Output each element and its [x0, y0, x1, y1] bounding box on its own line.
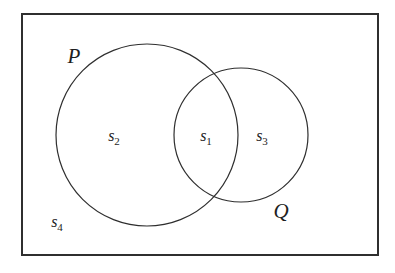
region-sub-s4: 4 — [57, 221, 63, 233]
region-sub-s3: 3 — [262, 135, 268, 147]
venn-diagram-figure: P Q s2 s1 s3 s4 — [0, 0, 395, 273]
set-label-p: P — [67, 44, 81, 68]
region-sub-s2: 2 — [114, 135, 120, 147]
venn-diagram-canvas: P Q s2 s1 s3 s4 — [0, 0, 395, 273]
set-label-q: Q — [273, 199, 288, 223]
region-sub-s1: 1 — [206, 135, 212, 147]
